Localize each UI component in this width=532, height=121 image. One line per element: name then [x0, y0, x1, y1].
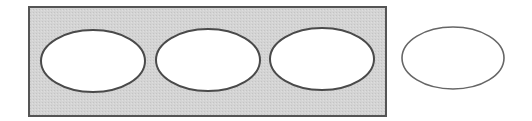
outside-ellipse — [402, 27, 504, 89]
venn-like-diagram — [0, 0, 532, 121]
inside-ellipse-2 — [156, 29, 260, 91]
inside-ellipse-1 — [41, 30, 145, 92]
diagram-canvas — [0, 0, 532, 121]
inside-ellipse-3 — [270, 28, 374, 90]
